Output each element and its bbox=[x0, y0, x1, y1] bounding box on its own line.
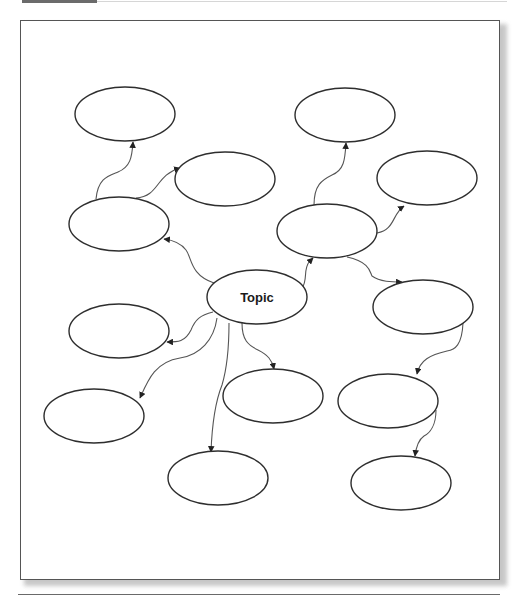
edge-n3-n1 bbox=[96, 142, 133, 199]
topic-label: Topic bbox=[240, 290, 274, 305]
concept-node-12 bbox=[338, 374, 438, 428]
edge-topic-n3 bbox=[164, 239, 214, 283]
concept-map: Topic bbox=[0, 0, 521, 601]
concept-node-11 bbox=[168, 451, 268, 505]
concept-node-6 bbox=[277, 204, 377, 258]
concept-node-3 bbox=[69, 197, 169, 251]
edge-n3-n2 bbox=[136, 168, 180, 198]
edge-n6-n5 bbox=[377, 206, 404, 233]
concept-node-7 bbox=[373, 280, 473, 334]
nodes: Topic bbox=[44, 87, 477, 510]
edge-topic-n8 bbox=[167, 312, 213, 342]
concept-node-4 bbox=[295, 88, 395, 142]
edge-topic-n10 bbox=[242, 323, 274, 369]
concept-node-13 bbox=[351, 456, 451, 510]
concept-node-10 bbox=[223, 369, 323, 423]
concept-node-1 bbox=[75, 87, 175, 141]
edge-n6-n4 bbox=[314, 143, 346, 205]
concept-node-2 bbox=[175, 152, 275, 206]
edge-n6-n7 bbox=[347, 257, 402, 282]
concept-node-5 bbox=[377, 151, 477, 205]
edge-topic-n6 bbox=[302, 258, 313, 288]
concept-node-8 bbox=[69, 304, 169, 358]
concept-node-9 bbox=[44, 389, 144, 443]
